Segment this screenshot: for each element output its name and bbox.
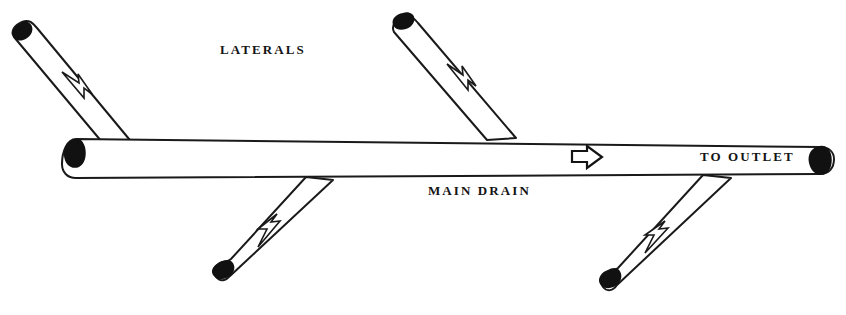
lateral-bottom-left: [212, 177, 333, 280]
lateral-top-right-body: [393, 16, 516, 140]
label-laterals: LATERALS: [220, 43, 306, 56]
lateral-bottom-right: [599, 175, 731, 290]
lateral-top-right: [393, 12, 516, 140]
label-main-drain: MAIN DRAIN: [428, 184, 531, 197]
lateral-top-left: [12, 21, 134, 148]
drainage-diagram: LATERALS MAIN DRAIN TO OUTLET: [0, 0, 846, 315]
label-to-outlet: TO OUTLET: [700, 150, 795, 163]
